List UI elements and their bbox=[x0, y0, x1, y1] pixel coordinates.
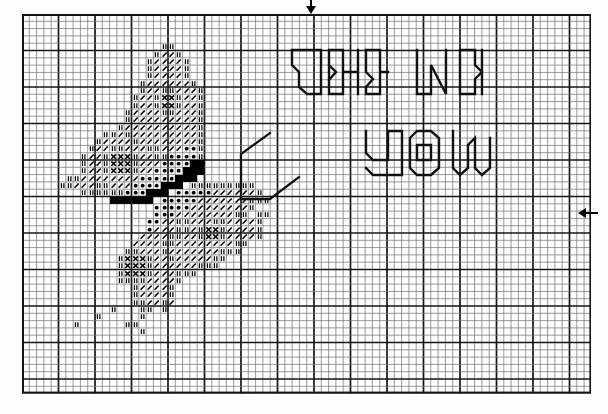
backstitch-layer bbox=[22, 14, 591, 394]
right-center-arrow-stem bbox=[586, 212, 598, 214]
letter-U bbox=[453, 131, 490, 175]
letter-A bbox=[366, 50, 388, 94]
letter-K bbox=[460, 50, 482, 94]
right-center-arrow-icon bbox=[578, 208, 586, 218]
letter-O bbox=[410, 131, 439, 175]
letter-H bbox=[329, 50, 358, 94]
lower-antenna-backstitch bbox=[241, 177, 299, 199]
pattern-grid bbox=[22, 14, 591, 394]
letter-N bbox=[417, 50, 446, 94]
upper-antenna-backstitch bbox=[241, 133, 270, 199]
top-center-arrow-stem bbox=[310, 0, 312, 8]
letter-T bbox=[292, 50, 321, 94]
cross-stitch-chart-page bbox=[0, 0, 608, 414]
letter-Y bbox=[366, 131, 402, 175]
